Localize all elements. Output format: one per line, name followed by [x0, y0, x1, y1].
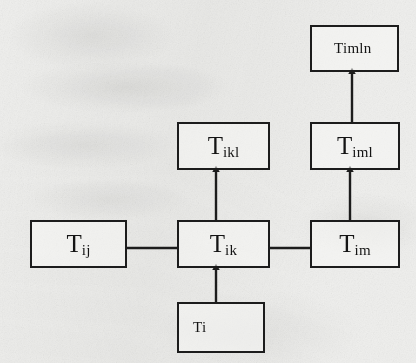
node-tik-subscript: ik: [225, 242, 237, 258]
node-tim-base: T: [339, 230, 354, 257]
node-tikl-label: Tikl: [208, 133, 240, 160]
node-tik-label: Tik: [210, 231, 237, 258]
node-tim: Tim: [310, 220, 400, 268]
node-ti-label: Ti: [193, 320, 206, 335]
node-timl-label: Timl: [337, 133, 373, 160]
node-tim-subscript: im: [355, 242, 371, 258]
node-tij: Tij: [30, 220, 127, 268]
node-tik-base: T: [210, 230, 225, 257]
node-timl: Timl: [310, 122, 400, 170]
node-tij-base: T: [66, 230, 81, 257]
node-ti-base: Ti: [193, 319, 206, 335]
node-tikl-base: T: [208, 132, 223, 159]
node-ti: Ti: [177, 302, 265, 353]
node-timln: Timln: [310, 25, 399, 72]
node-tikl: Tikl: [177, 122, 270, 170]
node-tikl-subscript: ikl: [223, 144, 239, 160]
node-timl-subscript: iml: [352, 144, 373, 160]
node-tij-label: Tij: [66, 231, 90, 258]
node-timln-base: Timln: [334, 40, 372, 56]
diagram-canvas: TimlnTiklTimlTijTikTimTi: [0, 0, 416, 363]
node-timln-label: Timln: [334, 41, 372, 56]
node-timl-base: T: [337, 132, 352, 159]
node-tik: Tik: [177, 220, 270, 268]
node-tim-label: Tim: [339, 231, 371, 258]
node-tij-subscript: ij: [82, 242, 91, 258]
